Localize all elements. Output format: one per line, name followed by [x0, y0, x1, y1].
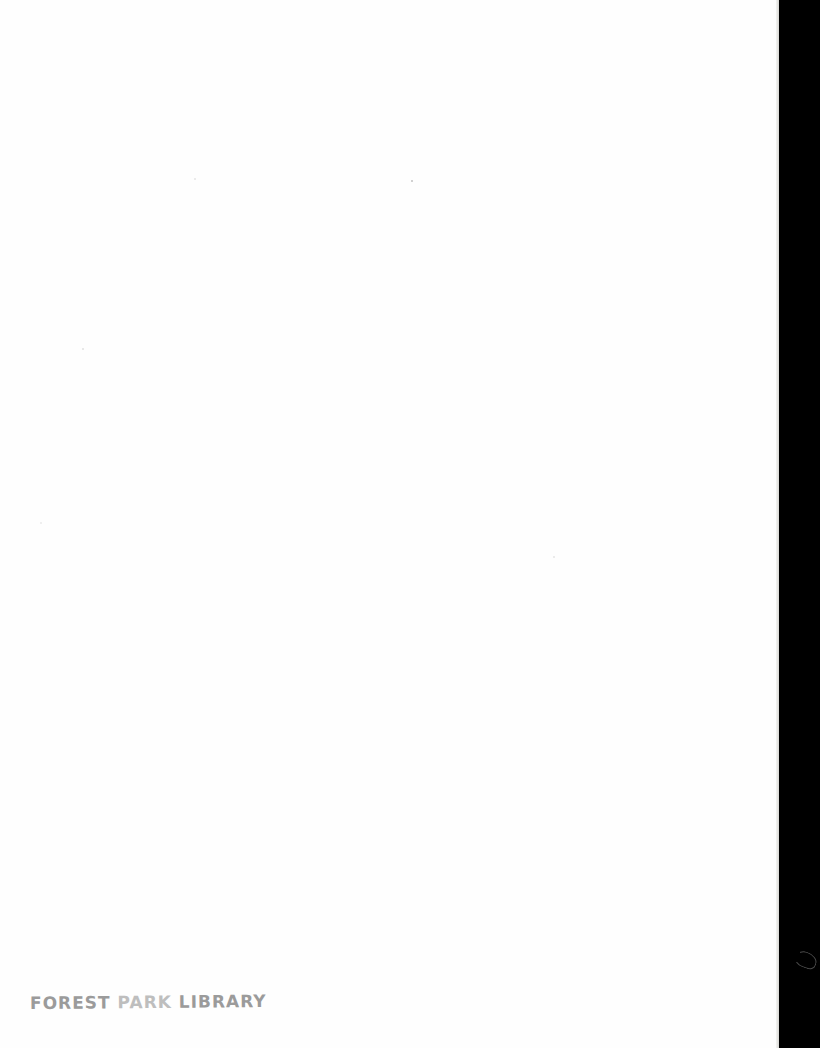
dust-speck	[82, 348, 84, 350]
stamp-text-park: PARK	[117, 992, 172, 1012]
scanner-background	[779, 0, 820, 1048]
library-stamp: FOREST PARK LIBRARY	[30, 991, 267, 1013]
scanned-page: FOREST PARK LIBRARY	[0, 0, 778, 1048]
dust-speck	[194, 178, 196, 180]
dust-speck	[553, 556, 555, 558]
stamp-text-library: LIBRARY	[172, 991, 267, 1012]
stamp-text-forest: FOREST	[30, 992, 118, 1013]
dust-speck	[40, 522, 42, 524]
dust-speck	[411, 180, 413, 182]
